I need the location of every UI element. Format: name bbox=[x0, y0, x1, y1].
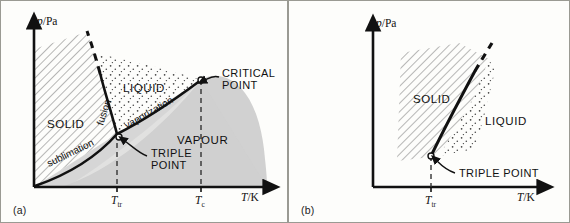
tick-label-triple: Ttr bbox=[111, 194, 122, 209]
triple-point-leader bbox=[437, 161, 455, 173]
panel-b-label: (b) bbox=[301, 204, 314, 216]
y-axis-label: p/Pa bbox=[375, 17, 396, 30]
liquid-region-label: LIQUID bbox=[485, 115, 527, 127]
panel-a-plot: p/Pa T/K Ttr Tc SOLID LIQUID VAPOUR subl… bbox=[1, 1, 288, 223]
x-axis-label: T/K bbox=[241, 191, 260, 203]
panel-b: p/Pa T/K Ttr SOLID LIQUID TRIPLE POINT (… bbox=[288, 0, 570, 223]
triple-point-annotation: TRIPLE POINT bbox=[459, 167, 539, 179]
critical-point-annotation: CRITICAL POINT bbox=[222, 67, 278, 91]
x-axis-unit: /K bbox=[523, 191, 535, 203]
critical-point-marker bbox=[198, 77, 204, 83]
x-axis-unit: /K bbox=[247, 191, 259, 203]
triple-point-marker bbox=[116, 134, 122, 140]
vapour-region-label: VAPOUR bbox=[177, 134, 228, 146]
liquid-region-label: LIQUID bbox=[123, 82, 165, 94]
panel-b-plot: p/Pa T/K Ttr SOLID LIQUID TRIPLE POINT bbox=[289, 1, 570, 223]
tick-label-critical: Tc bbox=[195, 194, 205, 209]
triple-point-marker bbox=[428, 153, 434, 159]
y-axis-unit: /Pa bbox=[43, 15, 58, 27]
solid-region-label: SOLID bbox=[47, 118, 85, 130]
y-axis-unit: /Pa bbox=[382, 17, 397, 29]
y-axis-label: p/Pa bbox=[36, 15, 57, 28]
x-axis-label: T/K bbox=[517, 191, 536, 203]
solid-region-label: SOLID bbox=[413, 93, 451, 105]
phase-diagram-figure: p/Pa T/K Ttr Tc SOLID LIQUID VAPOUR subl… bbox=[0, 0, 570, 223]
panel-a: p/Pa T/K Ttr Tc SOLID LIQUID VAPOUR subl… bbox=[0, 0, 288, 223]
panel-a-label: (a) bbox=[13, 204, 26, 216]
tick-label-triple: Ttr bbox=[425, 194, 436, 209]
